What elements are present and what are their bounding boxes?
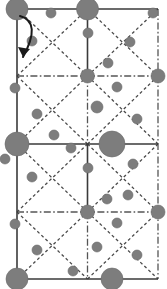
small-atom [112,82,122,92]
medium-atom [81,205,95,219]
small-atom [46,8,56,18]
medium-atom [151,69,165,83]
solid-lines [17,9,158,279]
medium-atom [81,69,95,83]
diag-r3c2-up [88,144,159,212]
large-atom [99,131,125,157]
small-atom [10,219,20,229]
small-atom [83,163,93,173]
small-atom [103,58,113,68]
small-atom [68,266,78,276]
small-atom [132,114,142,124]
lattice-figure [0,0,167,289]
small-atom [102,194,112,204]
small-atom [128,159,138,169]
diag-r3c2-down [88,144,159,212]
small-atom [125,37,135,47]
small-atom [92,242,102,252]
small-atom [0,154,10,164]
small-atom [32,109,42,119]
small-atom [123,190,133,200]
small-atom [27,172,37,182]
large-atom [5,132,29,156]
small-atom [148,8,158,18]
small-atom [49,130,59,140]
small-atom [32,245,42,255]
large-atom [101,268,123,289]
large-atom [6,268,28,289]
medium-atom [151,205,165,219]
small-atom [112,218,122,228]
small-atom [83,28,93,38]
large-atom [77,0,99,20]
small-atom [91,101,103,113]
small-atom [66,143,76,153]
small-atom [132,250,142,260]
lattice-diagram [0,0,167,289]
small-atom [10,83,20,93]
